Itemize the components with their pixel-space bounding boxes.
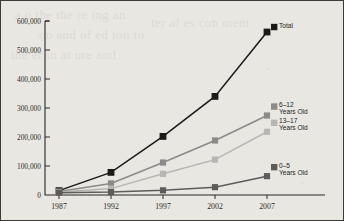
series-marker <box>264 173 270 179</box>
y-axis-tick-label: 0 <box>37 191 41 200</box>
series-marker <box>56 190 62 196</box>
legend-swatch <box>271 24 277 30</box>
x-axis-tick-label: 1992 <box>103 202 119 211</box>
series-marker <box>160 133 167 140</box>
series-marker <box>108 169 115 176</box>
chart-figure: a o the the re ing an on and of ed ion t… <box>0 0 344 221</box>
series-marker <box>212 157 218 163</box>
series-inline-labels: Total6–12Years Old13–17Years Old0–5Years… <box>271 22 308 176</box>
series-marker <box>212 137 218 143</box>
x-axis-tick-label: 2007 <box>259 202 275 211</box>
series-marker <box>212 93 219 100</box>
data-series-markers <box>56 29 271 196</box>
series-marker <box>108 189 114 195</box>
series-marker <box>212 184 218 190</box>
y-axis-tick-label: 500,000 <box>17 46 41 55</box>
series-marker <box>160 187 166 193</box>
legend-label-primary: Total <box>279 22 293 29</box>
x-axis-tick-label: 2002 <box>207 202 223 211</box>
series-marker <box>160 159 166 165</box>
legend-swatch <box>271 120 277 126</box>
x-axis-tick-labels: 19871992199720022007 <box>51 195 275 211</box>
y-axis-tick-label: 600,000 <box>17 17 41 26</box>
legend-swatch <box>271 164 277 170</box>
line-chart-plot: 0100,000200,000300,000400,000500,000600,… <box>1 1 344 221</box>
data-series-lines <box>59 32 267 193</box>
series-line <box>59 32 267 191</box>
series-marker <box>264 112 270 118</box>
x-axis-tick-label: 1997 <box>155 202 171 211</box>
legend-label-secondary: Years Old <box>279 169 308 176</box>
y-axis-tick-label: 400,000 <box>17 75 41 84</box>
series-marker <box>160 171 166 177</box>
x-axis-tick-label: 1987 <box>51 202 67 211</box>
legend-label-secondary: Years Old <box>279 108 308 115</box>
legend-label-secondary: Years Old <box>279 124 308 131</box>
series-marker <box>264 129 270 135</box>
series-marker <box>264 29 271 36</box>
y-axis-tick-label: 200,000 <box>17 133 41 142</box>
y-axis-tick-label: 300,000 <box>17 104 41 113</box>
y-axis-tick-label: 100,000 <box>17 162 41 171</box>
legend-swatch <box>271 103 277 109</box>
